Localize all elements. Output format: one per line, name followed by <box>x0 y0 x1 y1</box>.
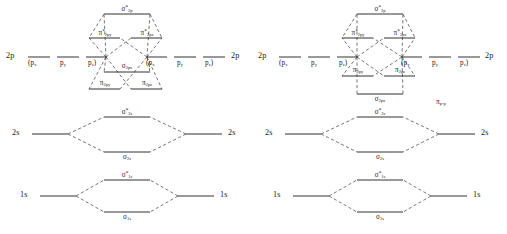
label-pi-star-2p-a: π*2py <box>351 29 364 37</box>
label-pi-p-p-annotation: πp-p <box>436 99 446 106</box>
label-py-left: py <box>311 60 317 67</box>
label-px-left: (px <box>279 60 287 67</box>
correlation-lines-2s <box>68 117 186 152</box>
label-sigma-2p: σ2px <box>375 96 386 103</box>
correlation-lines-2p-left <box>342 14 384 94</box>
label-2p-right: 2p <box>231 52 239 60</box>
label-2s-right: 2s <box>481 129 488 137</box>
label-sigma-2p: σ2px <box>122 63 133 70</box>
label-2p-right: 2p <box>485 52 493 60</box>
label-pi-star-2p-b: π*2pz <box>394 29 407 37</box>
label-pi-2p-a: π2py <box>100 80 110 87</box>
correlation-lines-1s <box>76 180 178 212</box>
label-pi-2p-b: π2pz <box>142 80 152 87</box>
correlation-lines-2p-left <box>89 14 131 89</box>
label-px-right: (px <box>146 60 154 67</box>
label-sigma-star-2s: σ*2s <box>375 108 386 116</box>
label-py-right: py <box>432 60 438 67</box>
mo-diagram-right-graphics <box>253 0 506 234</box>
label-sigma-star-2p: σ*2p <box>121 5 132 13</box>
label-pz-right: pz) <box>205 60 213 67</box>
label-sigma-star-2s: σ*2s <box>122 108 133 116</box>
label-pi-star-2p-a: π*2py <box>98 29 111 37</box>
label-sigma-2s: σ2s <box>123 154 131 161</box>
label-2s-right: 2s <box>228 129 235 137</box>
label-pz-left: pz) <box>88 60 96 67</box>
label-2s-left: 2s <box>265 129 272 137</box>
label-sigma-star-1s: σ*1s <box>375 171 386 179</box>
label-px-left: (px <box>28 60 36 67</box>
label-pz-left: pz) <box>339 60 347 67</box>
mo-diagram-left: 2p 2p (px py pz) (px py pz) σ*2p π*2py π… <box>0 0 253 234</box>
label-2p-left: 2p <box>258 52 266 60</box>
label-2p-left: 2p <box>6 52 14 60</box>
label-1s-right: 1s <box>220 191 227 199</box>
correlation-lines-2s <box>321 117 439 152</box>
mo-diagram-right: 2p 2p (px py pz) (px py pz) σ*2p π*2py π… <box>253 0 506 234</box>
correlation-lines-1s <box>329 180 431 212</box>
label-1s-left: 1s <box>20 191 27 199</box>
label-py-right: py <box>177 60 183 67</box>
label-sigma-star-1s: σ*1s <box>122 171 133 179</box>
label-1s-right: 1s <box>473 191 480 199</box>
label-sigma-1s: σ1s <box>123 214 131 221</box>
label-sigma-2s: σ2s <box>376 154 384 161</box>
label-sigma-star-2p: σ*2p <box>374 5 385 13</box>
label-1s-left: 1s <box>273 191 280 199</box>
mo-diagram-left-graphics <box>0 0 253 234</box>
label-2s-left: 2s <box>12 129 19 137</box>
label-pi-2p-a: π2py <box>353 67 363 74</box>
label-sigma-1s: σ1s <box>376 214 384 221</box>
label-pi-star-2p-b: π*2pz <box>141 29 154 37</box>
label-py-left: py <box>60 60 66 67</box>
label-pi-2p-b: π2pz <box>395 67 405 74</box>
label-pz-right: pz) <box>460 60 468 67</box>
